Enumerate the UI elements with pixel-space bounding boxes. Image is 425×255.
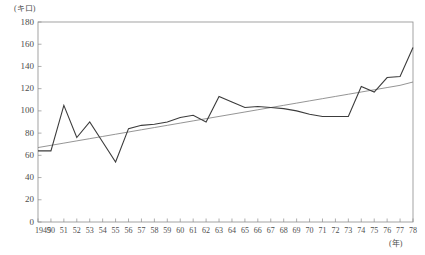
x-tick-label: 57	[134, 227, 148, 235]
y-tick-label: 0	[4, 218, 34, 227]
x-tick-label: 74	[354, 227, 368, 235]
x-tick-label: 77	[393, 227, 407, 235]
plot-frame	[38, 22, 413, 222]
x-tick-label: 51	[57, 227, 71, 235]
x-tick-label: 68	[277, 227, 291, 235]
x-tick-label: 72	[328, 227, 342, 235]
y-tick-label: 60	[4, 151, 34, 160]
y-tick-label: 40	[4, 173, 34, 182]
x-tick-label: 54	[96, 227, 110, 235]
data-line-series	[38, 48, 413, 162]
data-line-path	[38, 48, 413, 162]
plot-frame-rect	[38, 22, 413, 222]
x-tick-label: 65	[238, 227, 252, 235]
chart-container: (キロ) (年) 020406080100120140160180 194950…	[0, 0, 425, 255]
x-tick-label: 67	[264, 227, 278, 235]
x-tick-label: 53	[83, 227, 97, 235]
y-tick-label: 80	[4, 129, 34, 138]
x-tick-label: 61	[186, 227, 200, 235]
y-tick-label: 100	[4, 106, 34, 115]
x-tick-label: 78	[406, 227, 420, 235]
x-tick-label: 50	[44, 227, 58, 235]
x-tick-label: 62	[199, 227, 213, 235]
x-tick-label: 70	[303, 227, 317, 235]
chart-plot-area	[0, 0, 425, 255]
x-tick-label: 52	[70, 227, 84, 235]
x-tick-label: 64	[225, 227, 239, 235]
y-axis-ticks	[38, 22, 42, 222]
x-tick-label: 71	[315, 227, 329, 235]
x-tick-label: 76	[380, 227, 394, 235]
x-tick-label: 56	[122, 227, 136, 235]
x-tick-label: 69	[290, 227, 304, 235]
x-tick-label: 59	[160, 227, 174, 235]
x-tick-label: 66	[251, 227, 265, 235]
y-tick-label: 20	[4, 195, 34, 204]
x-axis-ticks	[38, 219, 413, 223]
y-tick-label: 180	[4, 18, 34, 27]
x-tick-label: 58	[147, 227, 161, 235]
x-tick-label: 75	[367, 227, 381, 235]
trend-line-path	[38, 82, 413, 148]
x-tick-label: 63	[212, 227, 226, 235]
x-tick-label: 73	[341, 227, 355, 235]
y-tick-label: 140	[4, 62, 34, 71]
x-tick-label: 55	[109, 227, 123, 235]
x-tick-label: 60	[173, 227, 187, 235]
y-tick-label: 160	[4, 40, 34, 49]
y-tick-label: 120	[4, 84, 34, 93]
trend-line-series	[38, 82, 413, 148]
